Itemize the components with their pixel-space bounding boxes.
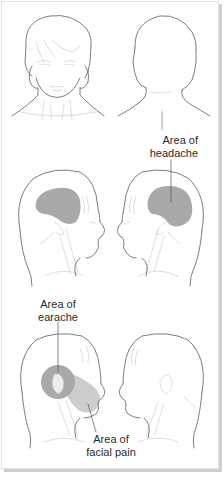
head-pain-illustration [0,0,224,477]
earache-label-line2: earache [32,311,84,324]
headache-region-left [36,188,81,224]
back-view-head [118,16,210,130]
left-profile-headache-head [19,170,105,286]
right-profile-headache-head [117,160,203,286]
left-profile-earache-facial-head [21,322,105,448]
right-profile-plain-head [119,334,203,448]
headache-label: Area of headache [146,134,198,160]
earache-label: Area of earache [32,298,84,324]
headache-region-right [148,186,193,226]
facial-pain-label: Area of facial pain [80,433,142,459]
headache-label-line2: headache [146,147,198,160]
front-view-head [12,16,104,121]
headache-label-line1: Area of [146,134,198,147]
earache-label-line1: Area of [32,298,84,311]
facial-pain-label-line1: Area of [80,433,142,446]
facial-pain-label-line2: facial pain [80,446,142,459]
